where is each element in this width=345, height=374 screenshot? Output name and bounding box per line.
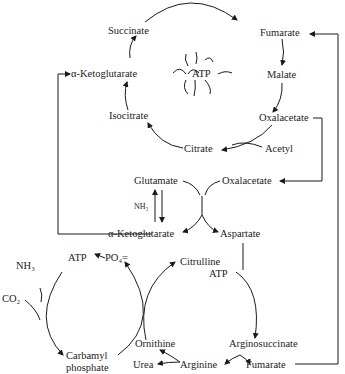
label-nh3-transamination: NH₃ [134,201,148,212]
node-arginosuccinate: Arginosuccinate [229,338,298,349]
node-po4: PO₄= [105,252,128,263]
node-citrulline: Citrulline [180,256,220,267]
node-fumarate-urea: Fumarate [246,359,286,370]
node-oxalacetate-transamination: Oxalacetate [222,175,272,186]
node-citrate: Citrate [184,143,213,154]
node-phosphate: phosphate [66,362,109,373]
node-isocitrate: Isocitrate [109,110,148,121]
node-ornithine: Ornithine [135,338,175,349]
node-urea: Urea [133,359,153,370]
node-atp-urea-left: ATP [68,252,87,263]
node-malate: Malate [267,69,296,80]
node-alpha-ketoglutarate-krebs: α-Ketoglutarate [71,68,137,79]
node-atp-urea-right: ATP [209,268,228,279]
node-acetyl: Acetyl [265,143,293,154]
node-aspartate: Aspartate [220,228,260,239]
label-nh3-urea: NH₃ [16,260,35,271]
node-succinate: Succinate [108,25,149,36]
node-carbamyl: Carbamyl [66,350,107,361]
atp-center: ATP [192,68,211,79]
node-arginine: Arginine [180,359,217,370]
node-glutamate: Glutamate [134,175,178,186]
node-fumarate-krebs: Fumarate [260,27,300,38]
node-alpha-ketoglutarate-transamination: α-Ketoglutarate [108,228,174,239]
metabolic-pathway-diagram [0,0,345,374]
node-oxalacetate-krebs: Oxalacetate [259,112,309,123]
label-co2: CO₂ [2,293,20,304]
